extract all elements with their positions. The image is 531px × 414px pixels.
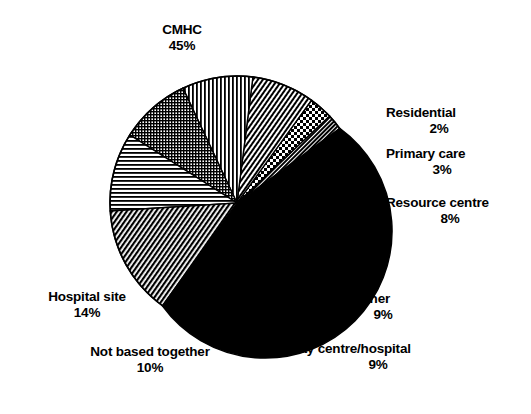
pie-slices	[110, 76, 392, 358]
pie-label-cmhc: CMHC 45%	[126, 22, 238, 54]
pie-label-not-based-together-name: Not based together	[55, 344, 245, 360]
pie-label-hospital-site-value: 14%	[24, 305, 150, 321]
pie-label-day-centre-value: 9%	[290, 357, 466, 373]
pie-label-not-based-together: Not based together 10%	[55, 344, 245, 376]
pie-label-primary-care-name: Primary care	[386, 146, 514, 162]
pie-label-cmhc-value: 45%	[126, 38, 238, 54]
pie-label-resource-centre-value: 8%	[386, 211, 514, 227]
pie-label-residential-name: Residential	[386, 105, 508, 121]
pie-label-hospital-site: Hospital site 14%	[24, 289, 150, 321]
pie-label-cmhc-name: CMHC	[126, 22, 238, 38]
pie-label-primary-care-value: 3%	[386, 162, 498, 178]
pie-label-other: Other 9%	[355, 291, 427, 323]
pie-label-primary-care: Primary care 3%	[386, 146, 514, 178]
pie-chart: CMHC 45% Residential 2% Primary care 3% …	[0, 0, 531, 414]
pie-label-day-centre-name: Day centre/hospital	[290, 341, 480, 357]
pie-label-other-name: Other	[355, 291, 427, 307]
pie-label-resource-centre: Resource centre 8%	[386, 195, 528, 227]
pie-label-day-centre: Day centre/hospital 9%	[290, 341, 480, 373]
pie-label-resource-centre-name: Resource centre	[386, 195, 528, 211]
pie-label-residential-value: 2%	[386, 121, 492, 137]
pie-label-residential: Residential 2%	[386, 105, 508, 137]
pie-label-other-value: 9%	[355, 307, 411, 323]
pie-label-not-based-together-value: 10%	[55, 360, 245, 376]
pie-label-hospital-site-name: Hospital site	[24, 289, 150, 305]
